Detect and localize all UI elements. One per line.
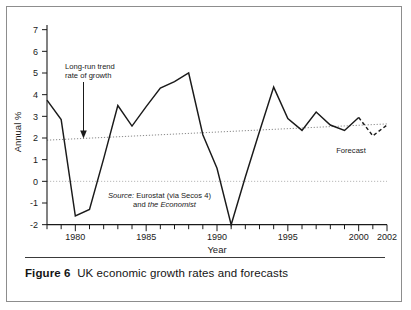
trend-annotation-line2: rate of growth bbox=[65, 71, 111, 80]
y-axis-tick-labels: 7 6 5 4 3 2 1 0 -1 -2 bbox=[30, 25, 38, 230]
y-tick-label: 4 bbox=[33, 90, 38, 100]
figure-number: Figure 6 bbox=[25, 267, 71, 279]
y-tick-label: 1 bbox=[33, 155, 38, 165]
y-tick-label: 6 bbox=[33, 47, 38, 57]
y-tick-label: -1 bbox=[30, 198, 38, 208]
source-text: Eurostat (via Secos 4) bbox=[134, 191, 211, 200]
long-run-trend-line bbox=[47, 124, 387, 140]
chart-plot: 7 6 5 4 3 2 1 0 -1 -2 Annual % bbox=[7, 7, 403, 255]
figure-frame: 7 6 5 4 3 2 1 0 -1 -2 Annual % bbox=[6, 6, 402, 302]
source-economist: the Economist bbox=[148, 200, 197, 209]
y-tick-label: 0 bbox=[33, 177, 38, 187]
y-tick-label: -2 bbox=[30, 220, 38, 230]
y-axis-ticks bbox=[42, 30, 47, 225]
x-tick-label: 1985 bbox=[136, 232, 156, 242]
data-line-forecast bbox=[359, 117, 387, 135]
y-tick-label: 5 bbox=[33, 68, 38, 78]
caption-divider bbox=[25, 257, 385, 258]
x-axis-title: Year bbox=[207, 244, 226, 255]
x-axis-tick-labels: 1980 1985 1990 1995 2000 2002 bbox=[65, 232, 397, 242]
y-axis-title: Annual % bbox=[12, 111, 23, 152]
trend-annotation: Long-run trend rate of growth bbox=[65, 62, 115, 139]
figure-caption-text: UK economic growth rates and forecasts bbox=[77, 267, 288, 279]
x-tick-label: 1995 bbox=[278, 232, 298, 242]
source-note: Source: Eurostat (via Secos 4) and the E… bbox=[108, 191, 211, 209]
forecast-label: Forecast bbox=[336, 146, 366, 155]
x-axis-ticks bbox=[47, 225, 387, 232]
trend-annotation-line1: Long-run trend bbox=[65, 62, 115, 71]
source-label: Source: bbox=[108, 191, 134, 200]
data-line-actual bbox=[47, 73, 359, 225]
x-tick-label: 2002 bbox=[377, 232, 397, 242]
figure-caption: Figure 6 UK economic growth rates and fo… bbox=[25, 265, 387, 295]
y-tick-label: 7 bbox=[33, 25, 38, 35]
growth-line-chart: 7 6 5 4 3 2 1 0 -1 -2 Annual % bbox=[7, 7, 403, 255]
svg-text:and the Economist: and the Economist bbox=[133, 200, 197, 209]
x-tick-label: 2000 bbox=[349, 232, 369, 242]
trend-annotation-arrowhead bbox=[80, 131, 87, 139]
y-tick-label: 2 bbox=[33, 133, 38, 143]
y-tick-label: 3 bbox=[33, 112, 38, 122]
x-tick-label: 1990 bbox=[207, 232, 227, 242]
source-text-line2: and bbox=[133, 200, 148, 209]
svg-text:Source: Eurostat (via Secos 4): Source: Eurostat (via Secos 4) bbox=[108, 191, 211, 200]
x-tick-label: 1980 bbox=[65, 232, 85, 242]
